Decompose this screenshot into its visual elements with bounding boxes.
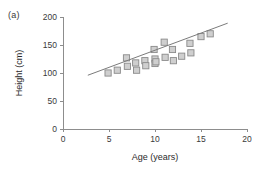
data-point xyxy=(133,60,139,66)
y-tick-label: 200 xyxy=(43,12,57,22)
data-point xyxy=(170,58,176,64)
y-axis-ticks: 050100150200 xyxy=(43,12,63,134)
data-point xyxy=(188,50,194,56)
data-point xyxy=(169,46,175,52)
data-point xyxy=(153,59,159,65)
data-point xyxy=(162,54,168,60)
x-axis-title: Age (years) xyxy=(132,152,179,162)
x-tick-label: 0 xyxy=(61,134,66,144)
x-tick-label: 20 xyxy=(242,134,252,144)
data-point xyxy=(114,67,120,73)
y-tick-label: 50 xyxy=(48,96,58,106)
x-tick-label: 15 xyxy=(196,134,206,144)
data-point xyxy=(179,53,185,59)
data-point xyxy=(187,40,193,46)
y-axis-title: Height (cm) xyxy=(14,50,24,97)
trend-line xyxy=(88,23,228,75)
data-point xyxy=(161,39,167,45)
data-point-markers xyxy=(105,31,213,76)
data-point xyxy=(143,63,149,69)
x-axis-ticks: 05101520 xyxy=(61,129,252,144)
data-point xyxy=(207,31,213,37)
y-tick-label: 150 xyxy=(43,40,57,50)
data-point xyxy=(134,67,140,73)
data-point xyxy=(105,70,111,76)
scatter-plot-figure: (a) 050100150200 05101520 Age (years) He… xyxy=(0,0,276,174)
x-tick-label: 5 xyxy=(107,134,112,144)
x-tick-label: 10 xyxy=(150,134,160,144)
y-tick-label: 100 xyxy=(43,68,57,78)
y-tick-label: 0 xyxy=(52,124,57,134)
data-point xyxy=(124,63,130,69)
plot-canvas: 050100150200 05101520 Age (years) Height… xyxy=(0,0,276,174)
